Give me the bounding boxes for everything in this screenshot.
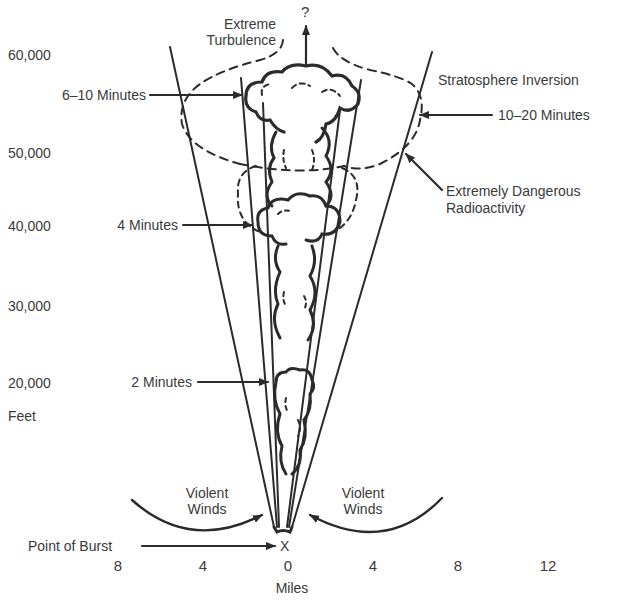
cloud-two-minutes [275, 368, 314, 474]
violent-winds-left-line1: Violent [172, 485, 242, 501]
extreme-turbulence-label-line1: Extreme [196, 16, 276, 32]
y-axis-unit-label: Feet [8, 408, 36, 424]
y-tick-40000: 40,000 [8, 218, 51, 234]
turbulence-envelope-right [333, 48, 422, 169]
x-tick-4-right: 4 [361, 558, 385, 574]
turbulence-envelope-left [181, 40, 283, 164]
x-tick-8-left: 8 [106, 558, 130, 574]
arrow-dangerous-radioactivity [406, 154, 442, 190]
point-of-burst-label: Point of Burst [28, 538, 112, 554]
violent-winds-right-line1: Violent [328, 485, 398, 501]
dangerous-radioactivity-label-line2: Radioactivity [446, 200, 525, 216]
dangerous-radioactivity-label-line1: Extremely Dangerous [446, 183, 581, 199]
y-tick-50000: 50,000 [8, 145, 51, 161]
violent-winds-left-line2: Winds [172, 501, 242, 517]
x-tick-4-left: 4 [191, 558, 215, 574]
extreme-turbulence-label-line2: Turbulence [176, 32, 276, 48]
x-axis-unit-label: Miles [264, 580, 320, 596]
y-tick-60000: 60,000 [8, 47, 51, 63]
stratosphere-inversion-label: Stratosphere Inversion [438, 72, 579, 88]
six-to-ten-minutes-label: 6–10 Minutes [20, 87, 146, 103]
x-tick-8-right: 8 [446, 558, 470, 574]
x-tick-12: 12 [533, 558, 563, 574]
outer-cone-right-line [292, 52, 432, 527]
mushroom-cloud-diagram: 60,000 50,000 40,000 30,000 20,000 Feet … [0, 0, 620, 606]
y-tick-30000: 30,000 [8, 298, 51, 314]
cloud-column-lower [274, 246, 315, 340]
question-mark-label: ? [301, 4, 309, 20]
x-tick-0: 0 [276, 558, 300, 574]
burst-marker: X [280, 538, 289, 554]
two-minutes-label: 2 Minutes [76, 374, 192, 390]
y-tick-20000: 20,000 [8, 375, 51, 391]
ten-to-twenty-minutes-label: 10–20 Minutes [498, 107, 590, 123]
stratosphere-dashed-base [240, 164, 344, 171]
four-minutes-label: 4 Minutes [60, 217, 178, 233]
violent-winds-right-line2: Winds [328, 501, 398, 517]
